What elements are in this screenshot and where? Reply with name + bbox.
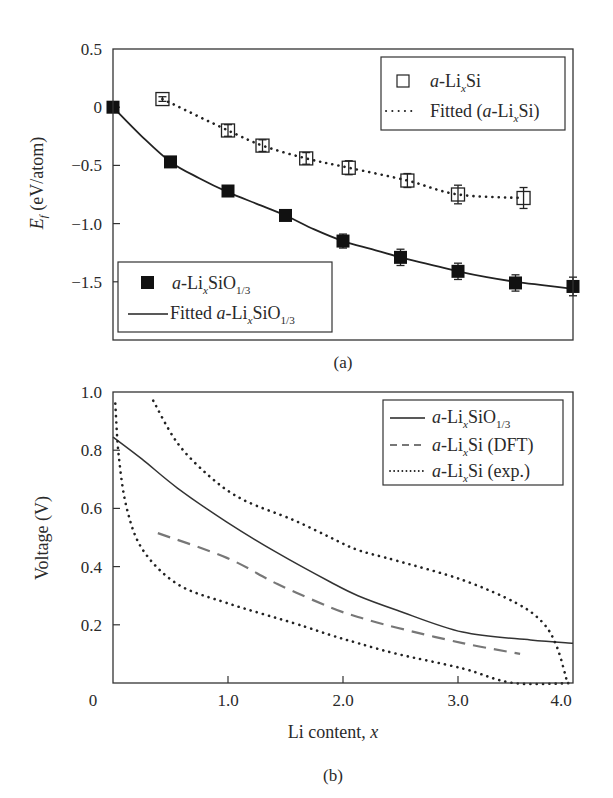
panel-a-formation-energy-chart: Ef (eV/atom) 0.50−0.5−1.0−1.5 a-LixSiFit…: [27, 40, 580, 372]
y-tick-label: 0.6: [81, 499, 102, 518]
panel-a-label: (a): [334, 353, 353, 372]
legend-entry-label: Fitted a-LixSiO1/3: [170, 303, 295, 326]
panel-a-legend-lower: a-LixSiO1/3Fitted a-LixSiO1/3: [118, 262, 332, 332]
panel-b-y-ticks: 1.00.80.60.40.2: [81, 383, 120, 635]
series-line: [158, 533, 520, 654]
x-tick-label: 3.0: [447, 691, 468, 710]
data-point-filled-square: [164, 155, 177, 168]
panel-b-x-axis-label: Li content, x: [288, 722, 378, 742]
data-point-filled-square: [279, 209, 292, 222]
legend-entry-label: a-LixSi (DFT): [432, 435, 533, 458]
figure: Ef (eV/atom) 0.50−0.5−1.0−1.5 a-LixSiFit…: [0, 0, 613, 798]
panel-b-voltage-chart: Voltage (V) 1.00.80.60.40.2 01.02.03.04.…: [32, 383, 573, 785]
x-tick-label: 4.0: [550, 691, 571, 710]
y-tick-label: −1.0: [71, 215, 102, 234]
y-tick-label: 1.0: [81, 383, 102, 402]
panel-a-legend-upper: a-LixSiFitted (a-LixSi): [381, 57, 565, 130]
legend-entry-label: a-LixSi (exp.): [432, 461, 530, 484]
data-point-filled-square: [394, 251, 407, 264]
x-tick-label: 1.0: [217, 691, 238, 710]
y-axis-title: Ef (eV/atom): [27, 137, 49, 231]
legend-filled-square-icon: [141, 276, 154, 289]
y-tick-label: 0: [94, 98, 103, 117]
y-tick-label: 0.4: [81, 558, 103, 577]
y-tick-label: −0.5: [71, 156, 102, 175]
y-tick-label: 0.5: [81, 40, 102, 59]
data-point-filled-square: [337, 235, 350, 248]
x-tick-label: 0: [89, 691, 98, 710]
x-tick-label: 2.0: [332, 691, 353, 710]
y-tick-label: −1.5: [71, 273, 102, 292]
panel-b-y-axis-label: Voltage (V): [32, 496, 53, 580]
x-axis-title: Li content, x: [288, 722, 378, 742]
legend-entry-label: Fitted (a-LixSi): [430, 101, 539, 124]
y-tick-label: 0.8: [81, 441, 102, 460]
legend-entry-label: a-LixSi: [430, 71, 481, 94]
y-axis-title: Voltage (V): [32, 496, 53, 580]
panel-b-label: (b): [323, 766, 343, 785]
data-point-filled-square: [509, 276, 522, 289]
panel-b-legend: a-LixSiO1/3a-LixSi (DFT)a-LixSi (exp.): [383, 400, 563, 485]
data-point-filled-square: [222, 185, 235, 198]
panel-a-y-axis-label: Ef (eV/atom): [27, 137, 49, 231]
data-point-filled-square: [452, 265, 465, 278]
y-tick-label: 0.2: [81, 616, 102, 635]
